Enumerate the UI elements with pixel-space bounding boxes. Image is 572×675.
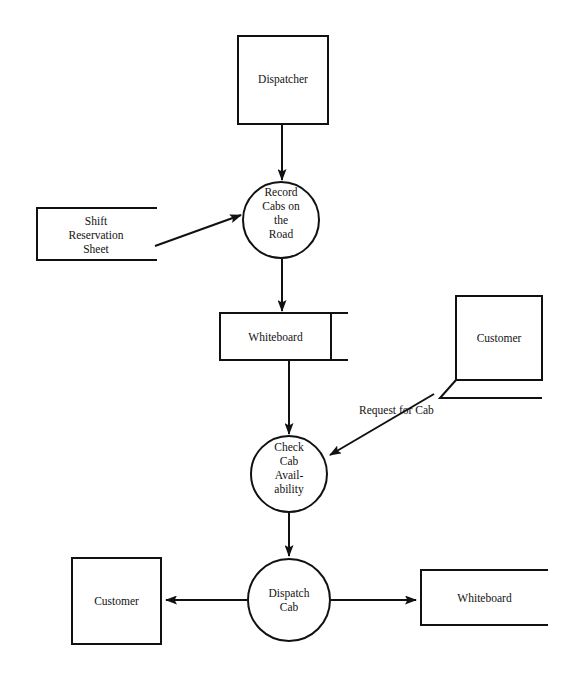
data-store-whiteboard-bottom [420, 570, 548, 625]
customer-corner-connector [440, 380, 542, 398]
flow-shift-sheet-to-record-cabs [155, 215, 241, 246]
external-entity-customer-bottom [72, 558, 161, 644]
diagram-canvas [0, 0, 572, 675]
data-store-shift-reservation-sheet [36, 208, 157, 260]
external-entity-customer-top [456, 296, 542, 380]
process-record-cabs-on-the-road [243, 182, 319, 258]
process-check-cab-availability [251, 436, 327, 512]
flow-label-request-for-cab: Request for Cab [359, 404, 434, 416]
process-dispatch-cab [248, 559, 330, 641]
data-store-whiteboard-top [219, 313, 348, 360]
external-entity-dispatcher [238, 36, 328, 124]
